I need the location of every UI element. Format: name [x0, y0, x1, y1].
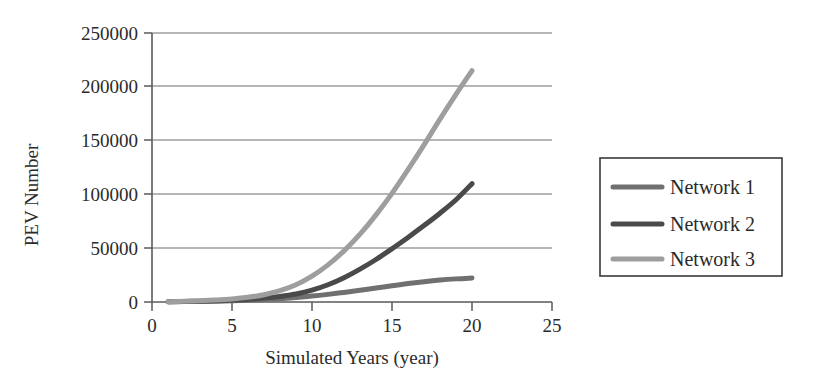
x-tick-label-15: 15	[383, 315, 402, 336]
x-tick-label-20: 20	[463, 315, 482, 336]
y-tick-label-250000: 250000	[81, 23, 138, 44]
chart-figure: 250000 200000 150000 100000 50000 0 PEV …	[0, 0, 823, 386]
y-axis: 250000 200000 150000 100000 50000 0 PEV …	[21, 23, 152, 313]
plot-grid	[152, 33, 552, 248]
y-tick-label-150000: 150000	[81, 130, 138, 151]
legend: Network 1 Network 2 Network 3	[600, 158, 782, 276]
series-line-network-3	[168, 71, 472, 302]
legend-label-network-1: Network 1	[670, 176, 755, 198]
series-line-network-2	[168, 184, 472, 302]
y-tick-label-100000: 100000	[81, 184, 138, 205]
x-axis-title: Simulated Years (year)	[265, 347, 439, 369]
x-tick-label-10: 10	[303, 315, 322, 336]
legend-label-network-3: Network 3	[670, 248, 755, 270]
y-tick-label-0: 0	[129, 292, 139, 313]
x-axis: 0 5 10 15 20 25 Simulated Years (year)	[147, 302, 561, 369]
y-axis-title: PEV Number	[21, 143, 42, 246]
legend-label-network-2: Network 2	[670, 213, 755, 235]
y-tick-label-50000: 50000	[91, 238, 139, 259]
y-tick-label-200000: 200000	[81, 76, 138, 97]
x-tick-label-0: 0	[147, 315, 157, 336]
data-series-group	[168, 71, 472, 302]
x-tick-label-5: 5	[227, 315, 237, 336]
x-tick-label-25: 25	[543, 315, 562, 336]
